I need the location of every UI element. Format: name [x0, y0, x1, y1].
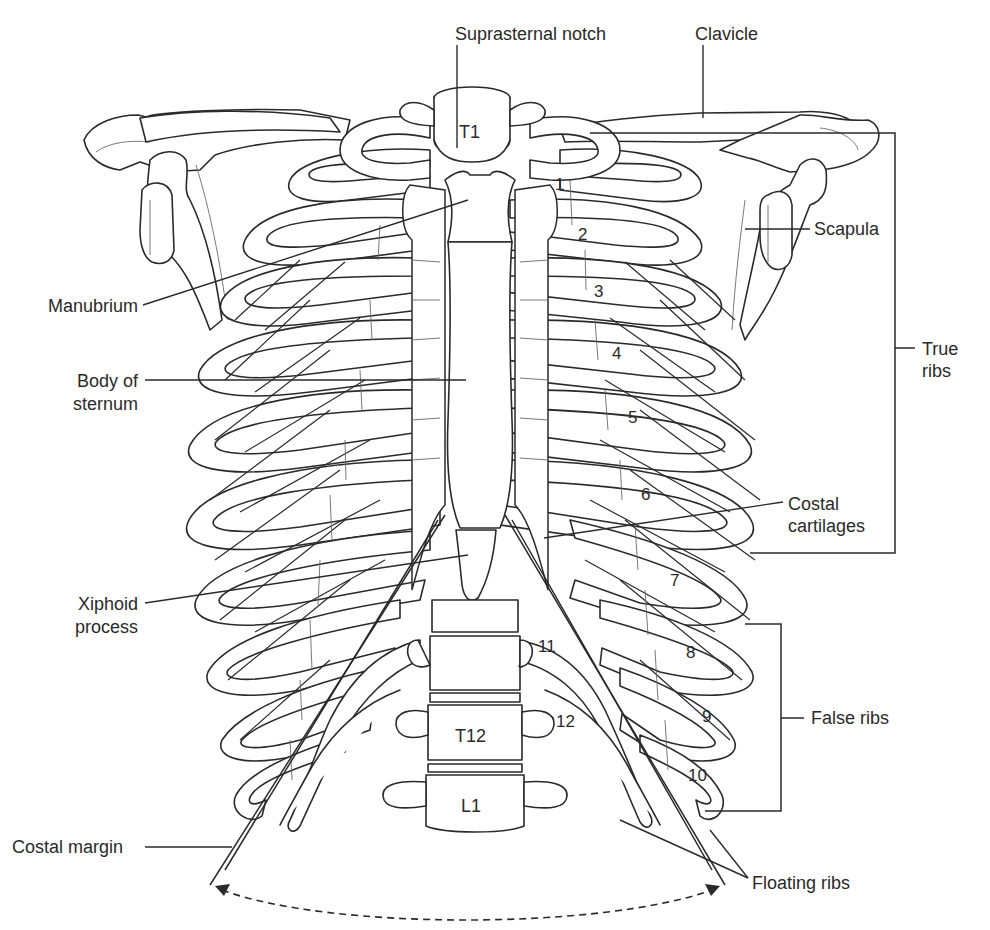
xiphoid-bone [456, 530, 496, 600]
rib-number-12: 12 [556, 712, 575, 731]
label-costal-margin: Costal margin [12, 837, 123, 857]
rib-number-11: 11 [538, 637, 556, 656]
label-xiphoid-2: process [75, 617, 138, 637]
sternum-body-bone [448, 242, 513, 528]
label-scapula: Scapula [814, 219, 880, 239]
vertebra-label-l1: L1 [461, 796, 481, 816]
rib-number-9: 9 [702, 707, 711, 726]
rib-number-4: 4 [612, 344, 621, 363]
label-suprasternal-notch: Suprasternal notch [455, 24, 606, 44]
rib-number-1: 1 [555, 175, 564, 194]
rib-number-10: 10 [688, 766, 707, 785]
label-costal-cartilages-2: cartilages [788, 516, 865, 536]
subcostal-angle-arc [222, 890, 712, 920]
rib-number-5: 5 [628, 408, 637, 427]
vertebra-label-t12: T12 [455, 726, 486, 746]
thoracic-cage-diagram: 1 2 3 4 5 6 7 8 9 10 11 12 T1 T12 L1 Sup… [0, 0, 990, 930]
label-body-of-sternum-1: Body of [77, 371, 139, 391]
label-false-ribs: False ribs [811, 708, 889, 728]
label-costal-cartilages-1: Costal [788, 494, 839, 514]
sternum [445, 171, 515, 600]
rib-number-8: 8 [686, 643, 695, 662]
rib-number-3: 3 [594, 282, 603, 301]
label-body-of-sternum-2: sternum [73, 394, 138, 414]
rib-number-6: 6 [641, 485, 650, 504]
label-clavicle: Clavicle [695, 24, 758, 44]
label-xiphoid-1: Xiphoid [78, 594, 138, 614]
vertebra-label-t1: T1 [459, 122, 480, 142]
label-manubrium: Manubrium [48, 296, 138, 316]
label-true-ribs-1: True [922, 339, 958, 359]
rib-number-7: 7 [670, 571, 679, 590]
manubrium-bone [445, 171, 515, 242]
label-floating-ribs: Floating ribs [752, 873, 850, 893]
rib-number-2: 2 [578, 225, 587, 244]
label-true-ribs-2: ribs [922, 361, 951, 381]
